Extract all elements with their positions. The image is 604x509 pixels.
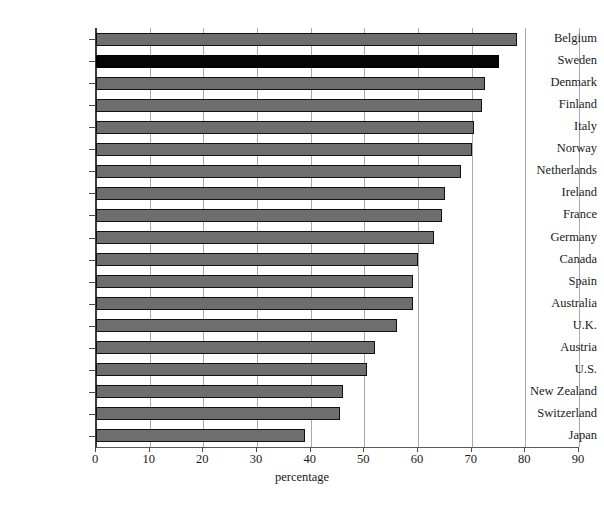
bar-germany [96, 231, 434, 244]
y-tick-0 [89, 39, 95, 40]
x-tick-label-90: 90 [558, 452, 598, 467]
category-label-spain: Spain [516, 275, 604, 288]
y-tick-5 [89, 149, 95, 150]
category-label-norway: Norway [516, 142, 604, 155]
x-tick-label-0: 0 [75, 452, 115, 467]
bar-ireland [96, 187, 445, 200]
category-label-new-zealand: New Zealand [516, 385, 604, 398]
y-tick-13 [89, 326, 95, 327]
y-tick-1 [89, 61, 95, 62]
x-tick-label-70: 70 [451, 452, 491, 467]
category-label-sweden: Sweden [516, 54, 604, 67]
x-axis-line [95, 447, 578, 448]
plot-area [95, 28, 578, 447]
y-tick-12 [89, 304, 95, 305]
y-tick-16 [89, 392, 95, 393]
category-label-austria: Austria [516, 341, 604, 354]
category-label-finland: Finland [516, 98, 604, 111]
bar-japan [96, 429, 305, 442]
bar-austria [96, 341, 375, 354]
y-tick-2 [89, 83, 95, 84]
x-tick-label-60: 60 [397, 452, 437, 467]
category-label-netherlands: Netherlands [516, 164, 604, 177]
bar-chart: 0102030405060708090 BelgiumSwedenDenmark… [0, 0, 604, 509]
bar-france [96, 209, 442, 222]
category-label-france: France [516, 208, 604, 221]
bar-finland [96, 99, 482, 112]
y-tick-14 [89, 348, 95, 349]
category-label-u-s: U.S. [516, 363, 604, 376]
category-label-germany: Germany [516, 231, 604, 244]
category-label-japan: Japan [516, 429, 604, 442]
x-tick-label-20: 20 [182, 452, 222, 467]
bar-new-zealand [96, 385, 343, 398]
bar-norway [96, 143, 472, 156]
bar-italy [96, 121, 474, 134]
y-tick-10 [89, 260, 95, 261]
category-label-switzerland: Switzerland [516, 407, 604, 420]
category-label-denmark: Denmark [516, 76, 604, 89]
y-tick-4 [89, 127, 95, 128]
bar-sweden [96, 55, 499, 68]
bar-canada [96, 253, 418, 266]
y-tick-17 [89, 414, 95, 415]
gridline-70 [472, 28, 473, 447]
bar-denmark [96, 77, 485, 90]
y-tick-9 [89, 238, 95, 239]
x-tick-label-40: 40 [290, 452, 330, 467]
y-tick-3 [89, 105, 95, 106]
category-label-italy: Italy [516, 120, 604, 133]
x-tick-label-50: 50 [343, 452, 383, 467]
y-tick-7 [89, 193, 95, 194]
category-label-u-k: U.K. [516, 319, 604, 332]
bar-u-k [96, 319, 397, 332]
bar-belgium [96, 33, 517, 46]
y-tick-18 [89, 436, 95, 437]
bar-netherlands [96, 165, 461, 178]
category-label-ireland: Ireland [516, 186, 604, 199]
x-axis-title: percentage [0, 470, 604, 485]
x-tick-label-80: 80 [504, 452, 544, 467]
category-label-canada: Canada [516, 253, 604, 266]
x-tick-label-30: 30 [236, 452, 276, 467]
x-tick-label-10: 10 [129, 452, 169, 467]
bar-switzerland [96, 407, 340, 420]
category-label-australia: Australia [516, 297, 604, 310]
bar-u-s [96, 363, 367, 376]
y-tick-15 [89, 370, 95, 371]
y-tick-6 [89, 171, 95, 172]
bar-australia [96, 297, 413, 310]
category-label-belgium: Belgium [516, 32, 604, 45]
bar-spain [96, 275, 413, 288]
y-tick-8 [89, 215, 95, 216]
y-tick-11 [89, 282, 95, 283]
